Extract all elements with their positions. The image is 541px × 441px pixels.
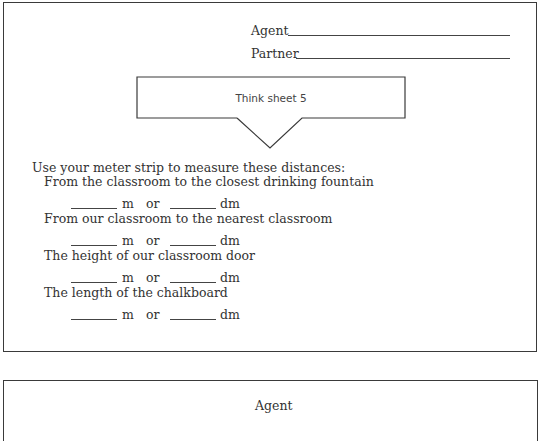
measure-item-label: From the classroom to the closest drinki… bbox=[44, 174, 374, 189]
unit-m: m bbox=[122, 307, 134, 322]
or-label: or bbox=[146, 196, 160, 211]
decimeters-input[interactable] bbox=[170, 282, 216, 283]
unit-dm: dm bbox=[220, 233, 240, 248]
unit-m: m bbox=[122, 270, 134, 285]
measure-item-label: The height of our classroom door bbox=[44, 248, 255, 263]
answer-row: m or dm bbox=[71, 233, 271, 249]
meters-input[interactable] bbox=[71, 245, 117, 246]
speech-bubble bbox=[0, 0, 541, 160]
decimeters-input[interactable] bbox=[170, 208, 216, 209]
decimeters-input[interactable] bbox=[170, 319, 216, 320]
unit-dm: dm bbox=[220, 196, 240, 211]
unit-dm: dm bbox=[220, 307, 240, 322]
or-label: or bbox=[146, 270, 160, 285]
or-label: or bbox=[146, 233, 160, 248]
instruction-text: Use your meter strip to measure these di… bbox=[32, 160, 345, 175]
agent-label-next: Agent bbox=[255, 398, 293, 413]
unit-m: m bbox=[122, 196, 134, 211]
unit-dm: dm bbox=[220, 270, 240, 285]
answer-row: m or dm bbox=[71, 307, 271, 323]
meters-input[interactable] bbox=[71, 282, 117, 283]
or-label: or bbox=[146, 307, 160, 322]
measure-item-label: From our classroom to the nearest classr… bbox=[44, 211, 332, 226]
bubble-title: Think sheet 5 bbox=[137, 92, 405, 104]
unit-m: m bbox=[122, 233, 134, 248]
meters-input[interactable] bbox=[71, 319, 117, 320]
meters-input[interactable] bbox=[71, 208, 117, 209]
decimeters-input[interactable] bbox=[170, 245, 216, 246]
measure-item-label: The length of the chalkboard bbox=[44, 285, 228, 300]
answer-row: m or dm bbox=[71, 270, 271, 286]
answer-row: m or dm bbox=[71, 196, 271, 212]
